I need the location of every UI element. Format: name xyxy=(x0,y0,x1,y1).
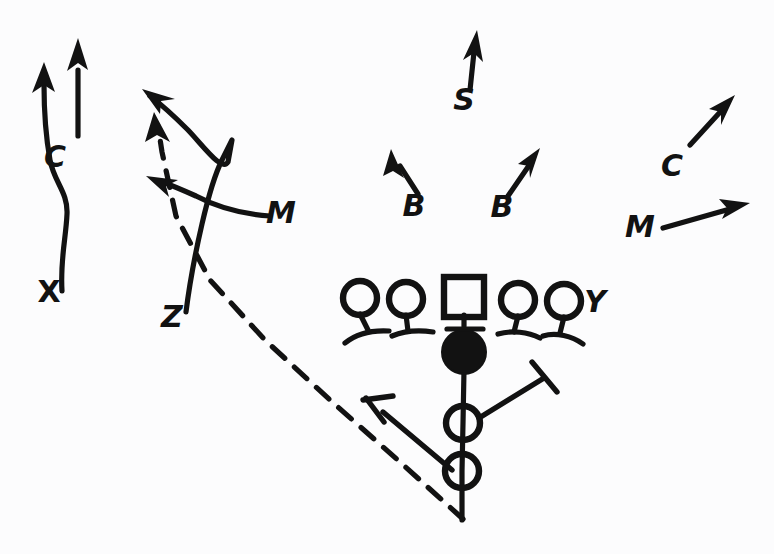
block-right-tbar xyxy=(532,362,557,392)
label-corner-left: C xyxy=(44,139,66,174)
block-right-path xyxy=(479,378,544,418)
corner-left-route xyxy=(67,38,88,136)
corner-left-arrowhead xyxy=(67,38,88,71)
label-x-receiver: X xyxy=(37,274,60,309)
label-backer-left: B xyxy=(403,188,426,223)
lt-block-arc xyxy=(345,331,389,343)
offensive-lineman-lg xyxy=(389,282,423,316)
quarterback xyxy=(442,330,486,374)
label-z-receiver: Z xyxy=(160,299,184,334)
mike-right-route xyxy=(663,199,750,228)
lg-block-arc xyxy=(392,331,433,336)
label-y-receiver: Y xyxy=(584,284,609,319)
label-backer-right: B xyxy=(491,189,514,224)
label-mike-right: M xyxy=(625,209,655,244)
offensive-lineman-rt xyxy=(547,284,581,318)
mike-right-path xyxy=(663,209,730,228)
label-corner-right: C xyxy=(661,148,683,183)
label-safety: S xyxy=(453,82,475,117)
offensive-center xyxy=(444,277,484,317)
block-left-path xyxy=(383,412,452,470)
rg-block-arc xyxy=(498,332,540,338)
play-diagram-canvas: X Y Z C M S B B C M xyxy=(0,0,774,554)
offensive-lineman-lt xyxy=(343,281,377,315)
rt-block-arc xyxy=(543,334,583,344)
corner-right-route xyxy=(690,95,735,145)
safety-route xyxy=(463,30,483,90)
motion-route-arrowhead xyxy=(145,112,170,142)
corner-right-path xyxy=(690,110,722,145)
block-left xyxy=(363,396,452,470)
block-right xyxy=(479,362,557,418)
backfield-connector xyxy=(462,370,464,520)
motion-route-path xyxy=(158,126,463,519)
playbook-svg: X Y Z C M S B B C M xyxy=(0,0,774,554)
label-mike-left: M xyxy=(266,195,296,230)
offensive-lineman-rg xyxy=(501,283,535,317)
x-receiver-route xyxy=(32,62,67,291)
backer-left-arrowhead xyxy=(383,149,404,178)
x-route-path xyxy=(44,84,67,291)
